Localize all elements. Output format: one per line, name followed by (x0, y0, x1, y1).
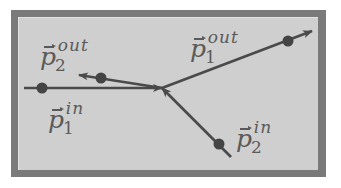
superscript: in (254, 117, 272, 137)
subscript: 1 (205, 47, 216, 67)
vector-symbol: p (236, 126, 252, 151)
vector-p2-out (79, 73, 162, 89)
superscript: out (208, 27, 239, 47)
subscript: 2 (55, 55, 66, 75)
vector-symbol: p (40, 44, 56, 69)
vector-p2-in (162, 88, 231, 157)
vector-symbol: p (48, 107, 64, 132)
particle-dot (37, 83, 48, 94)
momentum-diagram (0, 0, 341, 188)
superscript: out (58, 35, 89, 55)
subscript: 2 (251, 137, 262, 157)
particle-dot (96, 73, 107, 84)
label-p1-out: p1out (190, 36, 239, 61)
superscript: in (66, 98, 84, 118)
particle-dot (283, 36, 294, 47)
vector-symbol: p (190, 36, 206, 61)
label-p1-in: p1in (48, 107, 84, 132)
subscript: 1 (63, 118, 74, 138)
particle-dot (214, 139, 225, 150)
label-p2-in: p2in (236, 126, 272, 151)
arrow-line (79, 75, 162, 88)
label-p2-out: p2out (40, 44, 89, 69)
